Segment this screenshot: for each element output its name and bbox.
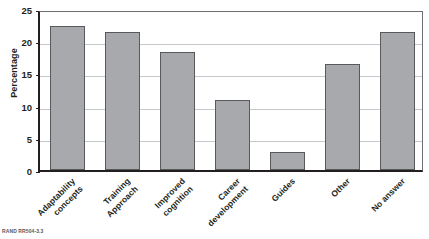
x-tick-label: Training Approach [78,176,140,238]
bar [380,32,414,170]
plot-area [38,11,423,172]
gridline [40,44,422,45]
x-tick-label: Improved cognition [133,176,195,238]
y-tick-mark [36,172,40,173]
y-tick-label: 0 [4,167,32,177]
x-tick-label: Other [298,176,352,230]
y-tick-label: 25 [4,6,32,16]
gridline [40,76,422,77]
bar [215,100,249,170]
bar [160,52,194,170]
bar [325,64,359,170]
x-tick-label: Guides [243,176,297,230]
bar [270,152,304,170]
bar-chart-figure: Percentage 0510152025 Adaptability conce… [0,0,429,239]
bar [50,26,84,170]
y-axis-title: Percentage [9,38,19,108]
x-tick-label: No answer [353,176,407,230]
bar [105,32,139,170]
x-tick-label: Career development [188,176,250,238]
y-tick-label: 5 [4,135,32,145]
source-note: RAND RR504-3.3 [2,228,43,234]
